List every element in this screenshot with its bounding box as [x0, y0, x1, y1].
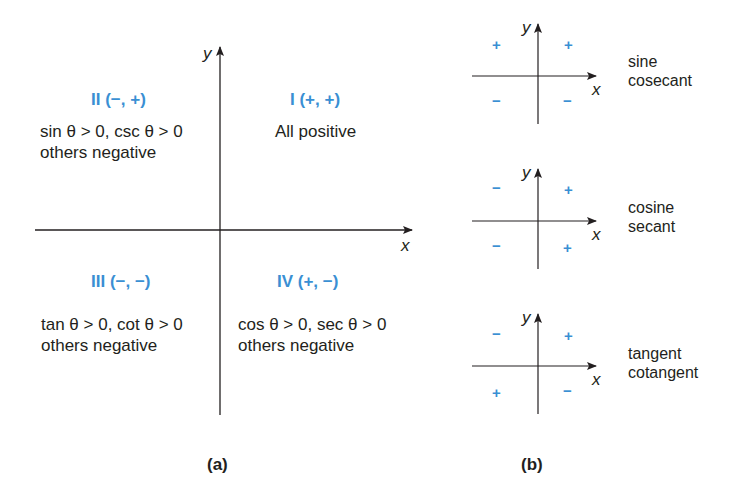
tangent-y-label: y: [522, 308, 531, 328]
x-axis-label: x: [401, 236, 410, 256]
cosine-x-label: x: [592, 225, 601, 245]
cosine-label: cosine: [628, 198, 674, 217]
tangent-x-label: x: [592, 370, 601, 390]
sine-x-label: x: [592, 80, 601, 100]
quadrant-i-line-1: All positive: [275, 121, 356, 142]
cosine-q2-sign: −: [492, 179, 501, 196]
quadrant-ii-line-2: others negative: [40, 142, 156, 163]
cotangent-label: cotangent: [628, 363, 698, 382]
sine-q1-sign: +: [564, 36, 573, 53]
sine-q3-sign: −: [492, 92, 501, 109]
panel-a-caption: (a): [207, 455, 228, 475]
tangent-q2-sign: −: [492, 325, 501, 342]
sine-label: sine: [628, 52, 657, 71]
sine-q2-sign: +: [492, 36, 501, 53]
quadrant-iii-line-2: others negative: [41, 335, 157, 356]
quadrant-ii-heading: II (−, +): [91, 90, 146, 110]
tangent-q1-sign: +: [564, 327, 573, 344]
quadrant-iv-line-2: others negative: [238, 335, 354, 356]
sine-q4-sign: −: [563, 92, 572, 109]
cosine-q3-sign: −: [492, 237, 501, 254]
cosecant-label: cosecant: [628, 71, 692, 90]
panel-b-caption: (b): [521, 455, 543, 475]
secant-label: secant: [628, 217, 675, 236]
cosine-q1-sign: +: [564, 181, 573, 198]
quadrant-i-heading: I (+, +): [290, 90, 340, 110]
quadrant-iii-line-1: tan θ > 0, cot θ > 0: [41, 314, 183, 335]
sine-y-label: y: [522, 18, 531, 38]
tangent-q4-sign: −: [563, 382, 572, 399]
cosine-q4-sign: +: [563, 239, 572, 256]
tangent-label: tangent: [628, 344, 681, 363]
cosine-y-label: y: [522, 163, 531, 183]
quadrant-ii-line-1: sin θ > 0, csc θ > 0: [40, 121, 183, 142]
y-axis-label: y: [203, 44, 212, 64]
quadrant-iv-heading: IV (+, −): [277, 272, 338, 292]
tangent-q3-sign: +: [492, 384, 501, 401]
quadrant-iv-line-1: cos θ > 0, sec θ > 0: [238, 314, 386, 335]
quadrant-iii-heading: III (−, −): [91, 272, 151, 292]
